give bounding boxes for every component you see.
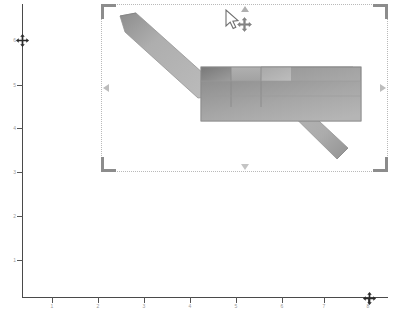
y-axis-tick-label: 4 xyxy=(2,125,16,131)
move-four-way-arrow-icon[interactable] xyxy=(15,33,30,48)
y-axis-tick-label: 3 xyxy=(2,169,16,175)
resize-handle-top-left[interactable] xyxy=(101,4,116,19)
y-axis-tick xyxy=(17,172,23,173)
y-axis-line xyxy=(22,4,23,298)
y-axis-tick-label: 1 xyxy=(2,257,16,263)
x-axis-tick-label: 7 xyxy=(317,303,331,309)
y-axis-tick xyxy=(17,128,23,129)
resize-handle-bottom-right[interactable] xyxy=(373,157,388,172)
y-axis-tick xyxy=(17,85,23,86)
resize-handle-left-mid[interactable] xyxy=(103,84,109,92)
y-axis-tick-label: 6 xyxy=(2,37,16,43)
x-axis-tick-label: 5 xyxy=(229,303,243,309)
y-axis-tick xyxy=(17,260,23,261)
x-axis-line xyxy=(22,297,388,298)
y-axis-tick xyxy=(17,216,23,217)
move-four-way-arrow-icon[interactable] xyxy=(362,291,377,306)
app-root: 654321 12345678 xyxy=(0,0,396,312)
y-axis-tick-label: 5 xyxy=(2,82,16,88)
resize-handle-right-mid[interactable] xyxy=(380,84,386,92)
y-axis-tick-label: 2 xyxy=(2,213,16,219)
resize-handle-top-right[interactable] xyxy=(373,4,388,19)
selection-frame[interactable] xyxy=(101,4,388,172)
x-axis-tick-label: 4 xyxy=(183,303,197,309)
resize-handle-bottom-mid[interactable] xyxy=(241,164,249,170)
x-axis-tick-label: 6 xyxy=(275,303,289,309)
x-axis-tick-label: 3 xyxy=(137,303,151,309)
x-axis-tick-label: 2 xyxy=(91,303,105,309)
x-axis-tick-label: 1 xyxy=(45,303,59,309)
resize-handle-top-mid[interactable] xyxy=(241,6,249,12)
resize-handle-bottom-left[interactable] xyxy=(101,157,116,172)
